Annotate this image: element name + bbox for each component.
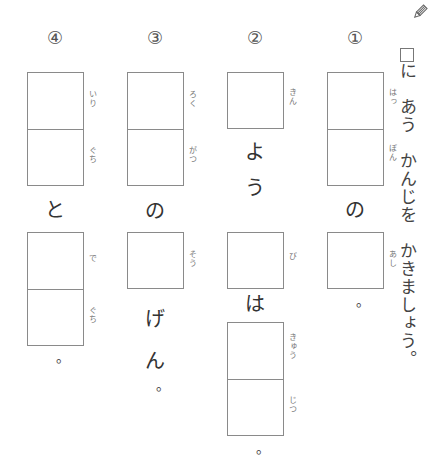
furigana: きん xyxy=(287,88,296,106)
period-mark: 。 xyxy=(335,294,391,308)
answer-box-symbol xyxy=(400,48,414,62)
furigana: じつ xyxy=(287,396,296,414)
box-divider xyxy=(328,129,383,130)
box-divider xyxy=(128,129,183,130)
kana-text: は xyxy=(227,293,283,315)
period-mark: 。 xyxy=(135,378,191,392)
pencil-icon xyxy=(412,4,428,24)
instruction-text: に あう かんじを かきましょう。 xyxy=(397,48,417,368)
furigana: ろく xyxy=(187,90,196,108)
answer-box-4a[interactable] xyxy=(27,72,84,186)
furigana: ぽん xyxy=(387,144,396,162)
kana-text: げ xyxy=(127,308,183,330)
furigana: で xyxy=(87,254,96,263)
answer-box-3a[interactable] xyxy=(127,72,184,186)
answer-box-2a[interactable] xyxy=(227,72,284,129)
box-divider xyxy=(28,289,83,290)
furigana: あし xyxy=(387,250,396,268)
answer-box-3b[interactable] xyxy=(127,232,184,289)
furigana: きゅう xyxy=(287,333,296,360)
furigana: はっ xyxy=(387,88,396,106)
box-divider xyxy=(28,129,83,130)
instruction-label: に あう かんじを かきましょう。 xyxy=(397,62,417,368)
kana-text: と xyxy=(27,199,83,221)
question-number-2: ② xyxy=(227,28,283,48)
kana-text: の xyxy=(327,199,383,221)
period-mark: 。 xyxy=(235,441,291,455)
period-mark: 。 xyxy=(35,350,91,364)
furigana: そう xyxy=(187,250,196,268)
question-number-4: ④ xyxy=(27,28,83,48)
answer-box-4b[interactable] xyxy=(27,232,84,346)
answer-box-2c[interactable] xyxy=(227,322,284,436)
kana-text: ん xyxy=(127,350,183,372)
question-number-3: ③ xyxy=(127,28,183,48)
furigana: いり xyxy=(87,90,96,108)
answer-box-1a[interactable] xyxy=(327,72,384,186)
furigana: ぐち xyxy=(87,306,96,324)
kana-text: の xyxy=(127,200,183,222)
furigana: ぐち xyxy=(87,146,96,164)
kana-text: よ xyxy=(227,141,283,163)
answer-box-1b[interactable] xyxy=(327,232,384,289)
kana-text: う xyxy=(227,177,283,199)
answer-box-2b[interactable] xyxy=(227,232,284,289)
furigana: び xyxy=(287,252,296,261)
furigana: がつ xyxy=(187,146,196,164)
box-divider xyxy=(228,379,283,380)
question-number-1: ① xyxy=(327,28,383,48)
